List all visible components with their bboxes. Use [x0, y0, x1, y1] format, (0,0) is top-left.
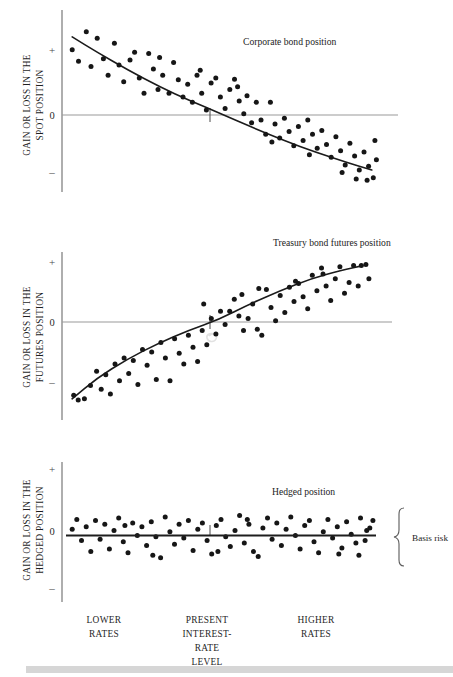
- data-point: [218, 309, 223, 314]
- data-point: [209, 81, 214, 86]
- data-point: [158, 555, 163, 560]
- panel2-tick-zero: 0: [49, 317, 54, 328]
- data-point: [246, 316, 251, 321]
- data-point: [298, 547, 303, 552]
- data-point: [140, 347, 145, 352]
- data-point: [324, 284, 329, 289]
- data-point: [150, 553, 155, 558]
- data-point: [177, 522, 182, 527]
- x-category-label: RATES: [301, 629, 331, 639]
- data-point: [354, 177, 359, 182]
- data-point: [93, 518, 98, 523]
- data-point: [325, 517, 330, 522]
- data-point: [365, 178, 370, 183]
- data-point: [117, 63, 122, 68]
- data-point: [199, 91, 204, 96]
- data-point: [149, 519, 154, 524]
- data-point: [214, 523, 219, 528]
- data-point: [219, 517, 224, 522]
- data-point: [126, 550, 131, 555]
- data-point: [177, 351, 182, 356]
- data-point: [259, 333, 264, 338]
- data-point: [277, 136, 282, 141]
- data-point: [79, 538, 84, 543]
- data-point: [279, 543, 284, 548]
- data-point: [227, 309, 232, 314]
- data-point: [363, 538, 368, 543]
- data-point: [70, 527, 75, 532]
- data-point: [239, 292, 244, 297]
- data-point: [353, 540, 358, 545]
- data-point: [254, 100, 259, 105]
- data-point: [200, 521, 205, 526]
- data-point: [117, 378, 122, 383]
- x-category-label: LEVEL: [191, 657, 222, 667]
- data-point: [232, 297, 237, 302]
- data-point: [95, 36, 100, 41]
- three-panel-scatter-chart: + 0 – Corporate bond position GAIN OR LO…: [0, 0, 453, 677]
- data-point: [235, 84, 240, 89]
- data-point: [70, 47, 75, 52]
- data-point: [94, 369, 99, 374]
- data-point: [84, 29, 89, 34]
- data-point: [76, 59, 81, 64]
- data-point: [84, 524, 89, 529]
- data-point: [172, 336, 177, 341]
- data-point: [273, 318, 278, 323]
- data-point: [255, 327, 260, 332]
- data-point: [249, 120, 254, 125]
- data-point: [321, 529, 326, 534]
- data-point: [329, 155, 334, 160]
- data-point: [198, 68, 203, 73]
- data-point: [71, 393, 76, 398]
- data-point: [342, 291, 347, 296]
- data-point: [292, 299, 297, 304]
- data-point: [278, 293, 283, 298]
- data-point: [163, 514, 168, 519]
- data-point: [205, 538, 210, 543]
- data-point: [237, 98, 242, 103]
- data-point: [167, 529, 172, 534]
- data-point: [132, 50, 137, 55]
- data-point: [145, 363, 150, 368]
- data-point: [88, 549, 93, 554]
- data-point: [251, 549, 256, 554]
- data-point: [200, 328, 205, 333]
- data-point: [316, 550, 321, 555]
- panel1-axis-title-line1: GAIN OR LOSS IN THE: [22, 54, 32, 155]
- data-point: [232, 77, 237, 82]
- x-category-label: RATES: [89, 629, 119, 639]
- data-point: [338, 148, 343, 153]
- data-point: [135, 382, 140, 387]
- data-point: [312, 539, 317, 544]
- data-point: [102, 522, 107, 527]
- data-point: [88, 383, 93, 388]
- data-point: [171, 60, 176, 65]
- data-point: [154, 377, 159, 382]
- data-point: [352, 154, 357, 159]
- x-axis-category-labels: LOWERRATESPRESENTINTEREST-RATELEVELHIGHE…: [87, 615, 335, 667]
- data-point: [282, 310, 287, 315]
- panel3-axis-title: GAIN OR LOSS IN THE HEDGED POSITION: [22, 479, 45, 580]
- data-point: [264, 287, 269, 292]
- data-point: [122, 356, 127, 361]
- panel3-tick-zero: 0: [49, 526, 54, 537]
- data-point: [242, 540, 247, 545]
- data-point: [358, 516, 363, 521]
- data-point: [356, 553, 361, 558]
- data-point: [340, 170, 345, 175]
- data-point: [328, 298, 333, 303]
- data-point: [172, 542, 177, 547]
- data-point: [274, 521, 279, 526]
- data-point: [351, 263, 356, 268]
- data-point: [236, 314, 241, 319]
- data-point: [305, 306, 310, 311]
- data-point: [287, 129, 292, 134]
- data-point: [103, 372, 108, 377]
- x-category-label: LOWER: [87, 615, 122, 625]
- data-point: [191, 548, 196, 553]
- data-point: [218, 95, 223, 100]
- data-point: [315, 146, 320, 151]
- panel-hedged: + 0 – Hedged position GAIN OR LOSS IN TH…: [22, 462, 448, 602]
- data-point: [122, 523, 127, 528]
